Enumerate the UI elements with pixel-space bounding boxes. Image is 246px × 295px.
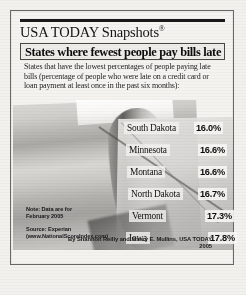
state-percent: 16.7% (198, 188, 227, 200)
credit-line: By Shannon Reilly and Marcy E. Mullins, … (64, 236, 212, 251)
table-row: Vermont 17.3% (129, 210, 246, 232)
headline-band: States where fewest people pay bills lat… (20, 43, 225, 60)
table-row: South Dakota 16.0% (124, 122, 246, 144)
masthead-rule (20, 19, 225, 22)
brand-name: USA TODAY Snapshots (20, 24, 159, 40)
headline-text: States where fewest people pay bills lat… (25, 45, 221, 60)
state-percent: 17.3% (205, 210, 234, 222)
state-label: North Dakota (128, 188, 183, 200)
state-percentage-list: South Dakota 16.0% Minnesota 16.6% Monta… (124, 122, 246, 254)
state-percent: 16.6% (198, 166, 227, 178)
deck-text: States that have the lowest percentages … (24, 62, 220, 91)
note-text: Note: Data are for February 2005 (26, 206, 94, 220)
table-row: North Dakota 16.7% (128, 188, 246, 210)
state-percent: 16.6% (198, 144, 227, 156)
state-label: Vermont (129, 210, 166, 222)
state-label: Montana (127, 166, 165, 178)
state-label: Minnesota (126, 144, 170, 156)
scanned-page-background: USA TODAY Snapshots® States where fewest… (0, 0, 246, 295)
brand-title: USA TODAY Snapshots® (20, 24, 225, 41)
snapshot-graphic-frame: USA TODAY Snapshots® States where fewest… (11, 11, 233, 264)
table-row: Montana 16.6% (127, 166, 246, 188)
state-label: South Dakota (124, 122, 179, 134)
notes-block: Note: Data are for February 2005 Source:… (26, 206, 94, 240)
table-row: Minnesota 16.6% (126, 144, 246, 166)
state-percent: 16.0% (194, 122, 223, 134)
registered-trademark-icon: ® (159, 24, 165, 33)
state-percent: 17.8% (208, 232, 237, 244)
